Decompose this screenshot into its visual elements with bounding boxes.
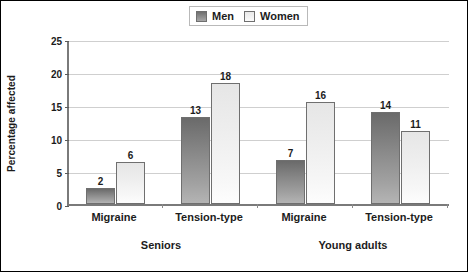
gridline-25: [69, 41, 449, 42]
bar-value-label: 16: [315, 90, 326, 101]
legend-swatch-women: [244, 11, 255, 22]
y-tick-label-20: 20: [51, 69, 62, 80]
group-label-young-adults: Young adults: [319, 239, 388, 251]
bar-seniors-migraine-women: 6: [116, 162, 145, 204]
group-label-seniors: Seniors: [141, 239, 181, 251]
bar-value-label: 7: [288, 148, 294, 159]
bar-value-label: 11: [410, 119, 421, 130]
y-tick-label-0: 0: [56, 201, 62, 212]
bar-young-tension-women: 11: [401, 131, 430, 204]
tick-mark-0: [65, 206, 69, 207]
bar-value-label: 18: [220, 71, 231, 82]
legend-label-men: Men: [212, 10, 234, 22]
y-tick-label-5: 5: [56, 168, 62, 179]
y-tick-label-10: 10: [51, 135, 62, 146]
category-separator-2: [257, 204, 258, 208]
legend-swatch-men: [196, 11, 207, 22]
y-tick-label-15: 15: [51, 102, 62, 113]
legend-item-women: Women: [244, 10, 300, 22]
bar-value-label: 14: [380, 100, 391, 111]
bar-young-tension-men: 14: [371, 112, 400, 204]
legend-item-men: Men: [196, 10, 234, 22]
gridline-20: [69, 74, 449, 75]
y-axis-title: Percentage affected: [3, 41, 19, 206]
bar-seniors-tension-men: 13: [181, 117, 210, 204]
chart-figure: Men Women Percentage affected 25 20 15: [0, 0, 468, 272]
bar-young-migraine-women: 16: [306, 102, 335, 204]
legend-label-women: Women: [260, 10, 300, 22]
category-label-seniors-tension: Tension-type: [175, 211, 243, 223]
y-axis-title-text: Percentage affected: [6, 75, 17, 172]
bar-young-migraine-men: 7: [276, 160, 305, 204]
tick-mark-25: [65, 41, 69, 42]
category-label-young-tension: Tension-type: [365, 211, 433, 223]
chart-legend: Men Women: [189, 6, 308, 26]
tick-mark-20: [65, 74, 69, 75]
bar-value-label: 13: [190, 105, 201, 116]
category-separator-1: [162, 204, 163, 208]
category-label-seniors-migraine: Migraine: [91, 211, 136, 223]
category-separator-3: [352, 204, 353, 208]
tick-mark-5: [65, 173, 69, 174]
category-label-young-migraine: Migraine: [281, 211, 326, 223]
plot-area: 25 20 15 10 5 0: [67, 41, 449, 206]
gridline-15: [69, 107, 449, 108]
tick-mark-10: [65, 140, 69, 141]
bar-seniors-migraine-men: 2: [86, 188, 115, 204]
bar-value-label: 6: [128, 150, 134, 161]
tick-mark-15: [65, 107, 69, 108]
y-tick-label-25: 25: [51, 36, 62, 47]
bar-value-label: 2: [98, 176, 104, 187]
category-separator-4: [447, 204, 448, 208]
bar-seniors-tension-women: 18: [211, 83, 240, 204]
